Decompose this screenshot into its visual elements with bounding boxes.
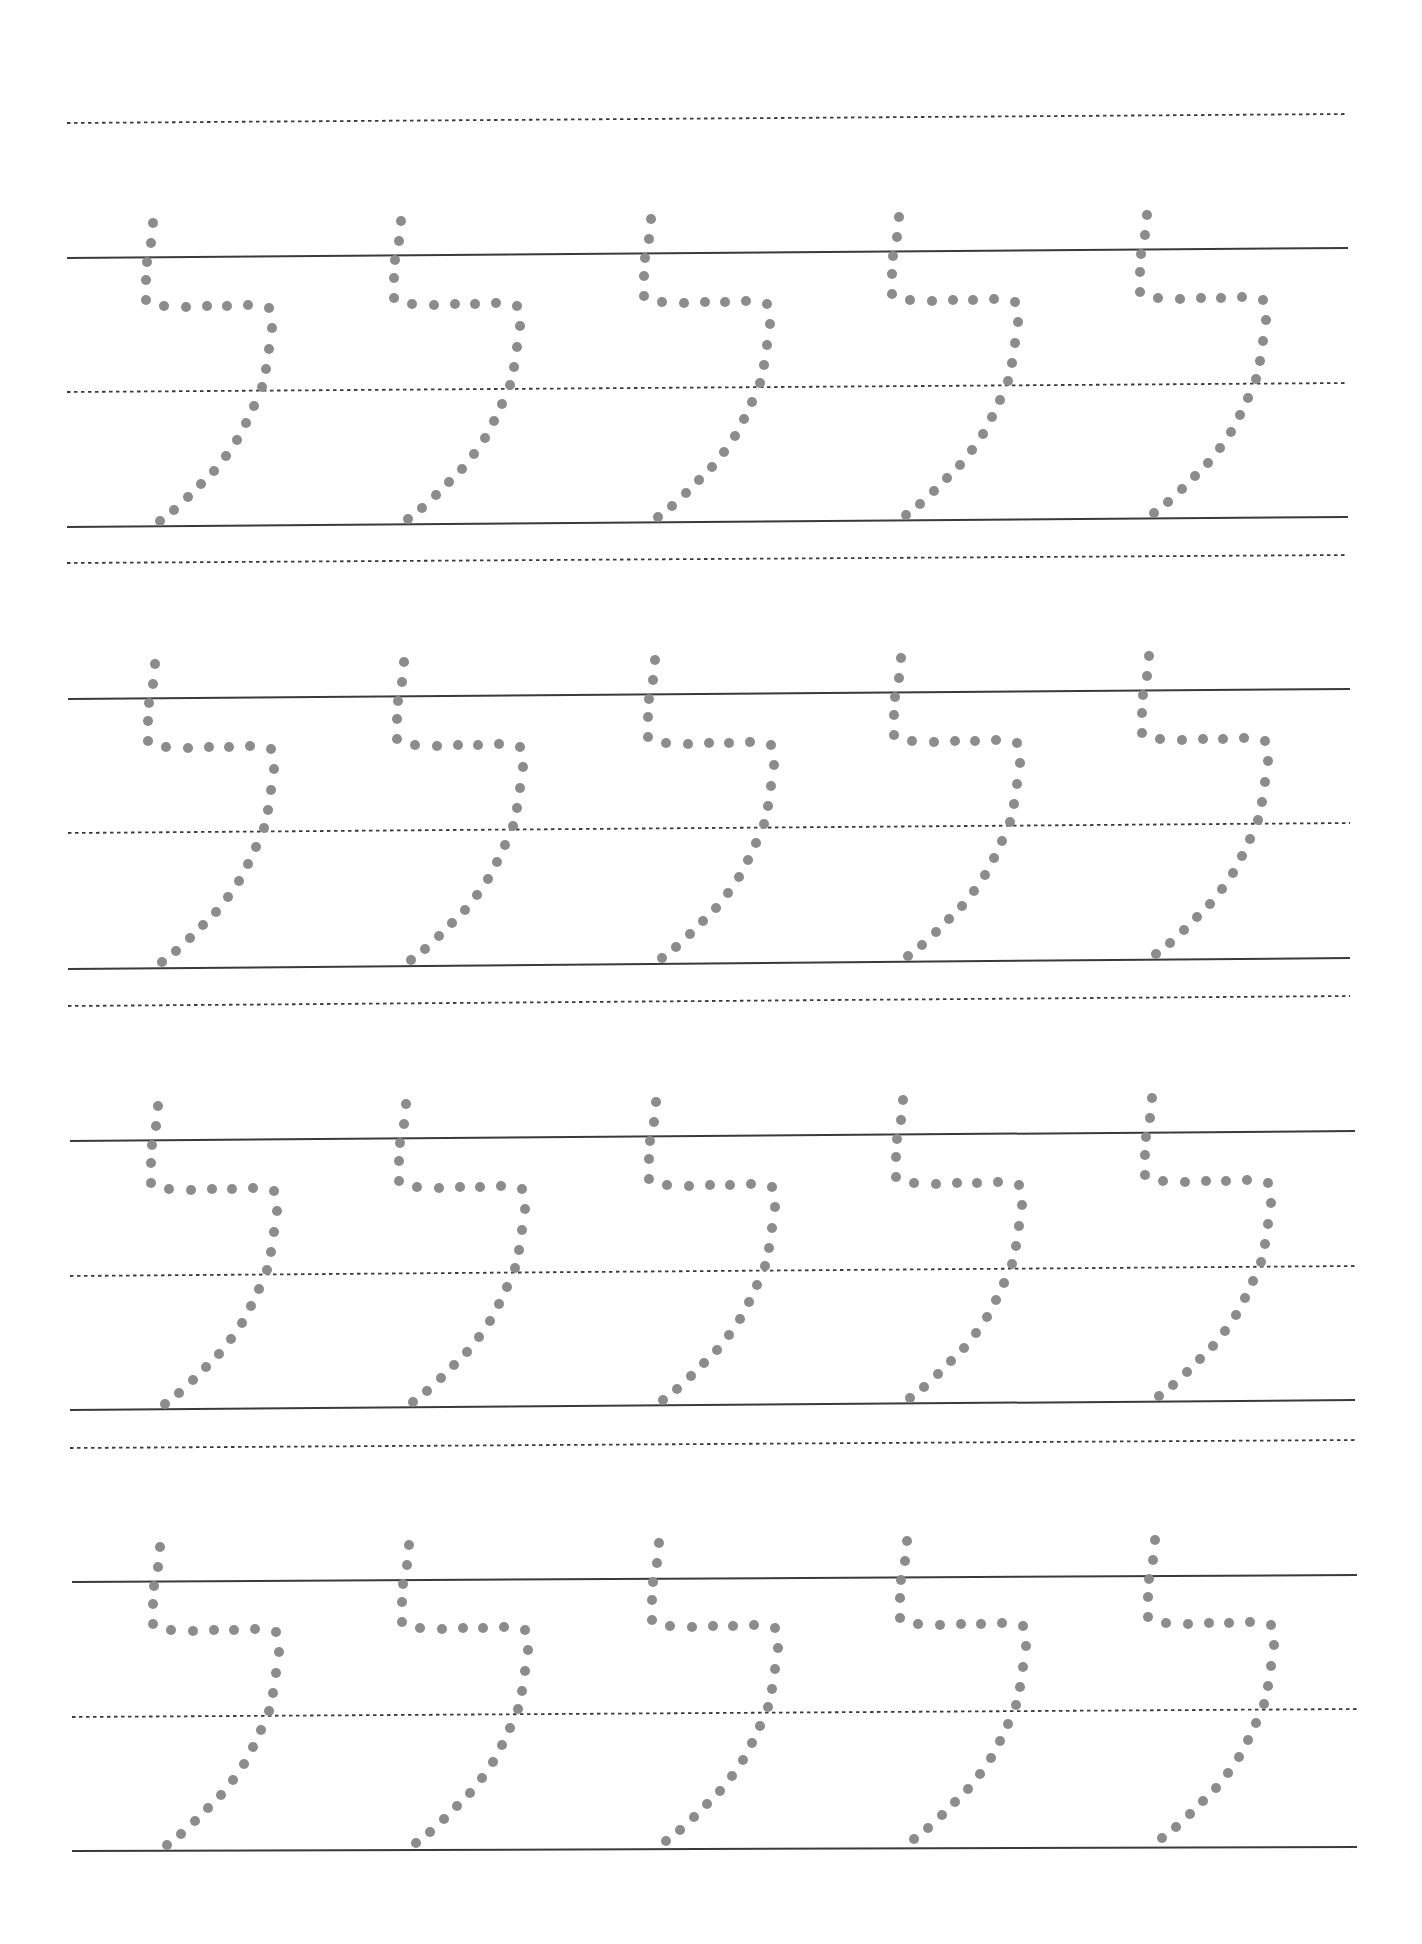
trace-dot bbox=[672, 1384, 682, 1394]
trace-dot bbox=[176, 1829, 186, 1839]
trace-dot bbox=[398, 1579, 408, 1589]
trace-dot bbox=[141, 295, 151, 305]
trace-dot bbox=[767, 1223, 777, 1233]
trace-dot bbox=[420, 944, 430, 954]
trace-dot bbox=[686, 1371, 696, 1381]
trace-dot bbox=[644, 1174, 654, 1184]
trace-dot bbox=[143, 716, 153, 726]
trace-dot bbox=[955, 460, 965, 470]
trace-dot bbox=[153, 1101, 163, 1111]
trace-dot bbox=[743, 855, 753, 865]
trace-dot bbox=[657, 953, 667, 963]
trace-dot bbox=[948, 295, 958, 305]
trace-dot bbox=[892, 232, 902, 242]
trace-dot bbox=[763, 1702, 773, 1712]
trace-dot bbox=[702, 1799, 712, 1809]
trace-dot bbox=[1198, 1796, 1208, 1806]
trace-dot bbox=[246, 1301, 256, 1311]
trace-dot bbox=[704, 738, 714, 748]
trace-dot bbox=[950, 1797, 960, 1807]
trace-dot bbox=[141, 275, 151, 285]
trace-dot bbox=[1253, 815, 1263, 825]
trace-dot bbox=[432, 741, 442, 751]
tracing-worksheet bbox=[0, 0, 1422, 1944]
trace-dot bbox=[250, 1624, 260, 1634]
trace-dot bbox=[251, 842, 261, 852]
trace-dot bbox=[995, 1736, 1005, 1746]
trace-dot bbox=[514, 1245, 524, 1255]
trace-dot bbox=[1260, 777, 1270, 787]
trace-dot bbox=[711, 903, 721, 913]
trace-dot bbox=[508, 821, 518, 831]
trace-dot bbox=[1266, 1198, 1276, 1208]
trace-dot bbox=[1142, 210, 1152, 220]
trace-dot bbox=[223, 892, 233, 902]
trace-dot bbox=[762, 299, 772, 309]
trace-dot bbox=[389, 293, 399, 303]
trace-dot bbox=[480, 433, 490, 443]
trace-dot bbox=[394, 1156, 404, 1166]
trace-dot bbox=[644, 234, 654, 244]
trace-dot bbox=[712, 1345, 722, 1355]
trace-dot bbox=[1211, 1783, 1221, 1793]
trace-dot bbox=[439, 1814, 449, 1824]
trace-dot bbox=[972, 1178, 982, 1188]
trace-dot bbox=[271, 1668, 281, 1678]
trace-dot bbox=[640, 253, 650, 263]
trace-dot bbox=[684, 1181, 694, 1191]
trace-dot bbox=[397, 1617, 407, 1627]
trace-dot bbox=[643, 712, 653, 722]
trace-dot bbox=[473, 740, 483, 750]
trace-dot bbox=[1154, 1391, 1164, 1401]
trace-dot bbox=[488, 1757, 498, 1767]
trace-dot bbox=[1021, 1641, 1031, 1651]
trace-dot bbox=[888, 251, 898, 261]
trace-dot bbox=[661, 1836, 671, 1846]
trace-dot bbox=[144, 698, 154, 708]
trace-dot bbox=[1220, 1326, 1230, 1336]
trace-dot bbox=[181, 302, 191, 312]
trace-dot bbox=[683, 739, 693, 749]
trace-dot bbox=[915, 499, 925, 509]
trace-dot bbox=[1177, 484, 1187, 494]
trace-dot bbox=[417, 503, 427, 513]
trace-dot bbox=[647, 1595, 657, 1605]
trace-dot bbox=[497, 1740, 507, 1750]
page-background bbox=[0, 0, 1422, 1944]
trace-dot bbox=[266, 785, 276, 795]
trace-dot bbox=[1203, 458, 1213, 468]
trace-dot bbox=[1136, 249, 1146, 259]
trace-dot bbox=[889, 710, 899, 720]
trace-dot bbox=[407, 299, 417, 309]
trace-dot bbox=[759, 360, 769, 370]
trace-dot bbox=[745, 737, 755, 747]
trace-dot bbox=[1171, 1822, 1181, 1832]
trace-dot bbox=[896, 1575, 906, 1585]
trace-dot bbox=[931, 927, 941, 937]
trace-dot bbox=[1263, 756, 1273, 766]
trace-dot bbox=[500, 840, 510, 850]
trace-dot bbox=[207, 1184, 217, 1194]
trace-dot bbox=[520, 1666, 530, 1676]
trace-dot bbox=[209, 1625, 219, 1635]
trace-dot bbox=[499, 1622, 509, 1632]
trace-dot bbox=[1196, 293, 1206, 303]
trace-dot bbox=[261, 364, 271, 374]
trace-dot bbox=[401, 1099, 411, 1109]
trace-dot bbox=[389, 273, 399, 283]
trace-dot bbox=[509, 362, 519, 372]
trace-dot bbox=[1263, 1681, 1273, 1691]
trace-dot bbox=[991, 1295, 1001, 1305]
trace-dot bbox=[1151, 949, 1161, 959]
trace-dot bbox=[1251, 1718, 1261, 1728]
trace-dot bbox=[895, 1613, 905, 1623]
trace-dot bbox=[1245, 1617, 1255, 1627]
trace-dot bbox=[1014, 1221, 1024, 1231]
trace-dot bbox=[518, 762, 528, 772]
trace-dot bbox=[746, 1179, 756, 1189]
trace-dot bbox=[653, 512, 663, 522]
trace-dot bbox=[903, 951, 913, 961]
trace-dot bbox=[147, 1140, 157, 1150]
trace-dot bbox=[517, 1686, 527, 1696]
trace-dot bbox=[647, 1615, 657, 1625]
